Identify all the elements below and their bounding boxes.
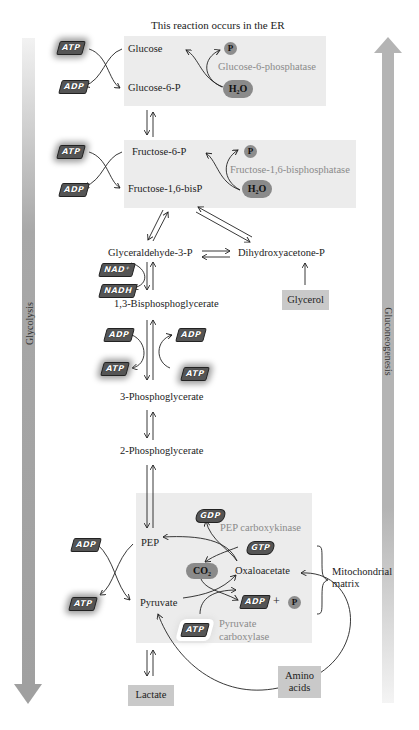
metabolite-pep: PEP	[141, 537, 159, 548]
metabolite-3-phosphoglycerate: 3-Phosphoglycerate	[120, 391, 203, 402]
water-icon: H₂O	[223, 80, 253, 98]
gdp-icon: GDP	[194, 509, 226, 523]
adp-icon: ADP	[58, 183, 90, 197]
glycerol-box: Glycerol	[282, 290, 329, 310]
metabolite-glucose: Glucose	[128, 43, 162, 54]
metabolite-fructose-1-6-bisp: Fructose-1,6-bisP	[128, 183, 202, 194]
nad-icon: NAD⁺	[98, 263, 136, 277]
enzyme-pyruvate-carboxylase-line1: Pyruvate	[219, 618, 256, 629]
amino-acids-box: Amino acids	[278, 666, 321, 698]
lactate-box: Lactate	[128, 685, 174, 706]
metabolite-dihydroxyacetone-p: Dihydroxyacetone-P	[238, 247, 325, 258]
water-icon: H₂O	[242, 180, 272, 198]
phosphate-icon: P	[288, 596, 301, 609]
atp-icon: ATP	[68, 597, 98, 611]
amino-acids-line1: Amino	[285, 670, 314, 682]
atp-icon: ATP	[56, 41, 86, 55]
adp-icon: ADP	[175, 328, 207, 342]
adp-icon: ADP	[239, 595, 271, 609]
atp-icon: ATP	[180, 623, 210, 637]
metabolite-1-3-bisphosphoglycerate: 1,3-Bisphosphoglycerate	[114, 298, 219, 309]
metabolite-glucose-6-p: Glucose-6-P	[128, 82, 181, 93]
adp-icon: ADP	[58, 80, 90, 94]
enzyme-glucose-6-phosphatase: Glucose-6-phosphatase	[218, 61, 316, 72]
enzyme-fructose-1-6-bisphosphatase: Fructose-1,6-bisphosphatase	[230, 164, 350, 175]
mitochondrial-matrix-line2: matrix	[332, 578, 359, 589]
metabolite-fructose-6-p: Fructose-6-P	[132, 146, 186, 157]
co2-icon: CO₂	[186, 563, 218, 579]
adp-icon: ADP	[70, 538, 102, 552]
reaction-arrows	[0, 0, 419, 730]
atp-icon: ATP	[100, 362, 130, 376]
amino-acids-line2: acids	[289, 682, 311, 694]
adp-icon: ADP	[103, 328, 135, 342]
atp-icon: ATP	[56, 145, 86, 159]
nadh-icon: NADH	[98, 284, 138, 298]
metabolite-glyceraldehyde-3-p: Glyceraldehyde-3-P	[108, 247, 193, 258]
plus-sign: +	[273, 594, 280, 609]
enzyme-pyruvate-carboxylase-line2: carboxylase	[219, 631, 269, 642]
atp-icon: ATP	[180, 367, 210, 381]
enzyme-pep-carboxykinase: PEP carboxykinase	[220, 522, 301, 533]
phosphate-icon: P	[224, 42, 237, 55]
metabolite-pyruvate: Pyruvate	[140, 597, 177, 608]
phosphate-icon: P	[244, 145, 257, 158]
mitochondrial-matrix-line1: Mitochondrial	[332, 566, 392, 577]
metabolite-2-phosphoglycerate: 2-Phosphoglycerate	[120, 445, 203, 456]
metabolite-oxaloacetate: Oxaloacetate	[235, 565, 290, 576]
